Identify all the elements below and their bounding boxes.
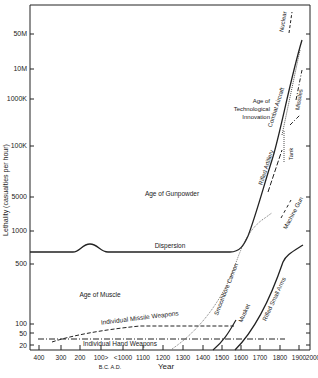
- right-axis-ticks: [306, 34, 310, 345]
- label-age-tech: Age of Technological Innovation: [234, 98, 271, 120]
- label-machine-gun: Machine Gun: [282, 196, 304, 230]
- x-axis-title: Year: [158, 362, 175, 371]
- svg-text:1100: 1100: [136, 354, 150, 361]
- svg-text:1200: 1200: [156, 354, 171, 361]
- x-axis-ticks: [39, 345, 299, 350]
- label-missiles: Missiles: [294, 89, 304, 111]
- label-age-gunpowder: Age of Gunpowder: [145, 190, 200, 198]
- svg-text:1500: 1500: [215, 354, 230, 361]
- svg-text:50: 50: [19, 330, 27, 337]
- lethality-chart: 50M 10M 1000K 100K 5000 1000 500 100 50 …: [0, 0, 318, 378]
- series-nuclear: [289, 12, 292, 33]
- svg-text:10M: 10M: [13, 65, 27, 72]
- svg-text:Age of: Age of: [253, 98, 271, 104]
- label-dispersion: Dispersion: [155, 242, 186, 250]
- label-musket: Musket: [237, 303, 251, 323]
- svg-text:1900: 1900: [292, 354, 307, 361]
- svg-text:Innovation: Innovation: [242, 114, 270, 120]
- svg-text:1600: 1600: [234, 354, 249, 361]
- svg-text:300: 300: [56, 354, 67, 361]
- x-tick-labels: 400 300 200 100> <1000 1100 1200 1300 14…: [34, 354, 318, 361]
- svg-text:2000: 2000: [306, 354, 318, 361]
- svg-text:5000: 5000: [11, 193, 27, 200]
- svg-text:1400: 1400: [196, 354, 211, 361]
- svg-text:1300: 1300: [176, 354, 191, 361]
- series-rifled-small-arms: [235, 245, 303, 350]
- svg-text:1000: 1000: [11, 227, 27, 234]
- svg-text:100>: 100>: [94, 354, 109, 361]
- label-hand-weapons: Individual Hand Weapons: [83, 340, 158, 348]
- era-note: B.C. A.D.: [99, 364, 122, 370]
- label-tank: Tank: [288, 147, 294, 161]
- series-dispersion: [30, 40, 302, 252]
- label-age-muscle: Age of Muscle: [79, 291, 121, 299]
- svg-text:1700: 1700: [253, 354, 268, 361]
- label-missile-weapons: Individual Missile Weapons: [100, 309, 179, 327]
- svg-text:<1000: <1000: [114, 354, 133, 361]
- svg-text:20: 20: [19, 342, 27, 349]
- svg-text:500: 500: [15, 260, 27, 267]
- y-axis-title: Lethality (casualties per hour): [2, 144, 10, 236]
- svg-text:100: 100: [15, 320, 27, 327]
- y-axis-ticks: [30, 34, 34, 345]
- svg-text:Technological: Technological: [234, 106, 270, 112]
- svg-text:400: 400: [34, 354, 45, 361]
- y-tick-labels: 50M 10M 1000K 100K 5000 1000 500 100 50 …: [7, 30, 28, 349]
- label-nuclear: Nuclear: [278, 11, 288, 32]
- svg-text:1800: 1800: [273, 354, 288, 361]
- svg-text:1000K: 1000K: [7, 95, 28, 102]
- svg-text:50M: 50M: [13, 30, 27, 37]
- svg-text:200: 200: [75, 354, 86, 361]
- label-rifled-small-arms: Rifled Small Arms: [261, 276, 286, 321]
- label-smoothbore-cannon: Smoothbore Cannon: [213, 262, 239, 316]
- series-smoothbore-cannon: [172, 213, 272, 349]
- svg-text:100K: 100K: [11, 142, 28, 149]
- series-musket: [213, 320, 236, 350]
